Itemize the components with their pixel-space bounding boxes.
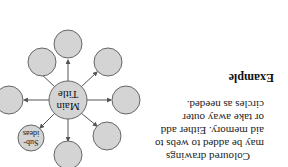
- outer-circle: [93, 122, 121, 150]
- outer-circle: [54, 30, 82, 58]
- connector-line: [40, 113, 55, 128]
- sub-ideas-label: Sub-: [23, 138, 38, 147]
- outer-circle: [112, 86, 140, 114]
- page: Example Coloured drawings may be added t…: [0, 0, 288, 167]
- main-title-label: Title: [58, 89, 79, 101]
- mind-map-diagram: Main Title Sub- ideas: [0, 0, 288, 167]
- main-title-label: Main: [56, 101, 80, 113]
- outer-circle: [0, 86, 23, 114]
- connector-line: [81, 72, 97, 87]
- outer-circle: [94, 48, 122, 76]
- outer-circle: [54, 141, 82, 167]
- sub-ideas-label: ideas: [23, 129, 39, 138]
- outer-circle: [28, 48, 56, 76]
- connector-line: [81, 113, 97, 126]
